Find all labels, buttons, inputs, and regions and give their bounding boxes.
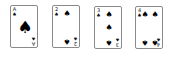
spade-icon: ♠ [73, 36, 78, 41]
card-index-bottom: 3 ♠ [115, 37, 120, 47]
spade-icon: ♠ [105, 11, 112, 19]
spade-icon: ♠ [156, 37, 161, 42]
spade-icon: ♠ [151, 11, 158, 19]
spade-icon: ♠ [54, 12, 59, 17]
card-ace-of-spades[interactable]: A ♠ ♠ A ♠ [10, 5, 38, 48]
spade-icon: ♠ [105, 38, 112, 46]
card-index-bottom: A ♠ [31, 36, 36, 46]
card-two-of-spades[interactable]: 2 ♠ ♠ ♠ 2 ♠ [52, 5, 80, 48]
spade-icon: ♠ [17, 19, 32, 36]
card-index-top: A ♠ [12, 7, 17, 17]
spade-icon: ♠ [63, 37, 70, 45]
spade-icon: ♠ [96, 13, 101, 18]
card-index-bottom: 2 ♠ [73, 36, 78, 46]
spade-icon: ♠ [63, 10, 70, 18]
spade-icon: ♠ [12, 12, 17, 17]
spade-icon: ♠ [115, 37, 120, 42]
card-four-of-spades[interactable]: 4 ♠ ♠ ♠ ♠ ♠ 4 ♠ [135, 6, 163, 49]
card-index-top: 3 ♠ [96, 8, 101, 18]
spade-icon: ♠ [141, 11, 148, 19]
spade-icon: ♠ [141, 38, 148, 46]
card-three-of-spades[interactable]: 3 ♠ ♠ ♠ ♠ 3 ♠ [94, 6, 122, 49]
spade-icon: ♠ [105, 24, 112, 32]
card-index-top: 2 ♠ [54, 7, 59, 17]
spade-icon: ♠ [31, 36, 36, 41]
card-index-bottom: 4 ♠ [156, 37, 161, 47]
